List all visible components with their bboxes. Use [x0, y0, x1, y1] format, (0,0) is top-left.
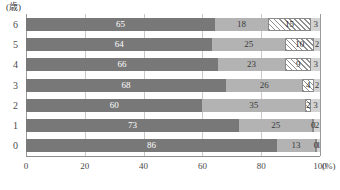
x-axis-ticks: 020406080100: [26, 160, 320, 176]
bar-segment-value: 3: [313, 20, 318, 29]
y-axis-tick-label: 4: [13, 56, 18, 73]
bar-segment-2: 25: [239, 119, 312, 132]
y-axis-tick-label: 5: [13, 36, 18, 53]
gridline-100: [320, 14, 321, 156]
bar-segment-1: 64: [26, 38, 212, 51]
x-axis-tick-label: 60: [198, 160, 207, 172]
x-axis-unit-label: (%): [322, 160, 336, 172]
bar-segment-value: 3: [313, 101, 318, 110]
bar-segment-1: 66: [26, 58, 218, 71]
bar-segment-1: 68: [26, 79, 226, 92]
x-axis-tick-label: 80: [257, 160, 266, 172]
bar-segment-value: 35: [249, 101, 258, 110]
x-axis-tick-label: 0: [24, 160, 29, 172]
x-axis-line: [26, 156, 320, 157]
bar-segment-4: 2: [314, 79, 320, 92]
bar-segment-value: 73: [128, 121, 137, 130]
bar-segment-4: 2: [314, 119, 320, 132]
bar-segment-value: 68: [121, 81, 130, 90]
bar-row: 1732502: [26, 119, 320, 132]
bar-segment-value: 4: [306, 81, 311, 90]
bar-segment-4: 3: [311, 99, 320, 112]
bar-row: 3682642: [26, 79, 320, 92]
plot-area: 6651815356425102466239336826422603523173…: [26, 14, 320, 156]
bar-segment-1: 65: [26, 18, 215, 31]
y-axis-tick-label: 3: [13, 77, 18, 94]
bar-segment-value: 9: [296, 60, 301, 69]
bar-segment-1: 60: [26, 99, 202, 112]
bar-segment-2: 26: [226, 79, 302, 92]
x-axis-tick-label: 20: [80, 160, 89, 172]
bar-segment-value: 15: [285, 20, 294, 29]
bar-segment-value: 66: [118, 60, 127, 69]
bar-segment-4: 3: [311, 18, 320, 31]
bar-segment-4: 2: [314, 38, 320, 51]
bar-segment-1: 86: [26, 139, 277, 152]
bar-segment-2: 25: [212, 38, 285, 51]
bar-segment-3: 10: [285, 38, 314, 51]
bar-segment-value: 65: [116, 20, 125, 29]
bar-segment-value: 2: [315, 40, 320, 49]
bar-segment-value: 3: [313, 60, 318, 69]
bar-row: 4662393: [26, 58, 320, 71]
stacked-bar-chart: (歳) 665181535642510246623933682642260352…: [0, 0, 340, 190]
bar-segment-2: 23: [218, 58, 285, 71]
bar-segment-3: 4: [302, 79, 314, 92]
bar-segment-4: 1: [317, 139, 320, 152]
bar-segment-2: 13: [277, 139, 315, 152]
bar-segment-value: 26: [260, 81, 269, 90]
bar-segment-1: 73: [26, 119, 239, 132]
bar-row: 56425102: [26, 38, 320, 51]
bar-segment-value: 25: [244, 40, 253, 49]
x-axis-tick-label: 40: [139, 160, 148, 172]
bar-row: 66518153: [26, 18, 320, 31]
bar-segment-value: 60: [110, 101, 119, 110]
bar-row: 0861301: [26, 139, 320, 152]
bar-segment-value: 2: [315, 121, 320, 130]
bar-segment-3: 15: [268, 18, 312, 31]
bar-segment-value: 64: [115, 40, 124, 49]
bar-segment-3: 9: [285, 58, 311, 71]
y-axis-tick-label: 1: [13, 117, 18, 134]
bar-segment-2: 35: [202, 99, 305, 112]
y-axis-unit-label: (歳): [6, 2, 21, 13]
bar-segment-value: 18: [237, 20, 246, 29]
y-axis-tick-label: 2: [13, 97, 18, 114]
bar-segment-value: 1: [316, 141, 321, 150]
bar-segment-value: 10: [295, 40, 304, 49]
bar-segment-value: 86: [147, 141, 156, 150]
y-axis-tick-label: 6: [13, 16, 18, 33]
bar-segment-value: 2: [306, 101, 311, 110]
bar-segment-value: 23: [247, 60, 256, 69]
bar-segment-value: 25: [271, 121, 280, 130]
y-axis-tick-label: 0: [13, 137, 18, 154]
bar-segment-value: 13: [292, 141, 301, 150]
bar-segment-value: 2: [315, 81, 320, 90]
bar-segment-4: 3: [311, 58, 320, 71]
bar-segment-2: 18: [215, 18, 267, 31]
bar-row: 2603523: [26, 99, 320, 112]
